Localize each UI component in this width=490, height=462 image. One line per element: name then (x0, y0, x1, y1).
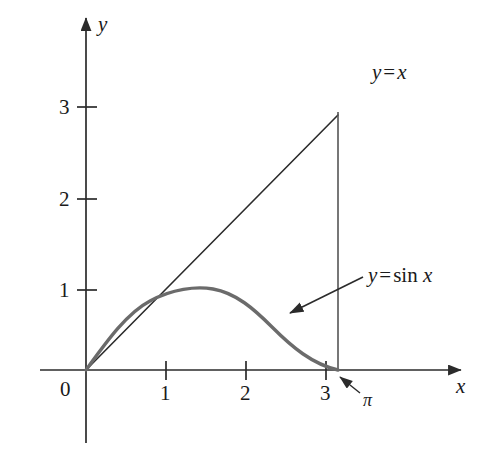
y-axis-label: y (98, 14, 107, 35)
identity-line-label: y=x (372, 62, 407, 83)
y-tick-label-1: 1 (59, 280, 70, 301)
sine-label-lhs: y (368, 263, 377, 287)
sine-curve-label: y=sin x (368, 265, 432, 286)
x-tick-label-3: 3 (320, 383, 331, 404)
x-tick-label-1: 1 (160, 383, 171, 404)
sine-label-function: sin (393, 263, 418, 287)
pi-leader-arrow (340, 377, 360, 393)
x-axis-label: x (456, 376, 465, 397)
sine-label-leader-arrow (290, 277, 363, 313)
y-tick-label-2: 2 (59, 189, 70, 210)
sine-label-operator: = (377, 263, 393, 287)
identity-label-lhs: y (372, 60, 381, 84)
origin-label: 0 (60, 379, 71, 400)
y-axis-ticks (77, 107, 97, 290)
identity-label-operator: = (381, 60, 397, 84)
pi-marker-label: π (363, 391, 372, 409)
sine-curve (86, 288, 338, 370)
sine-vs-identity-figure: y x 1 2 3 1 2 3 0 y=x y=sin x π (0, 0, 490, 462)
x-tick-label-2: 2 (240, 383, 251, 404)
identity-label-rhs: x (397, 60, 406, 84)
identity-line-y-equals-x (86, 115, 338, 370)
y-tick-label-3: 3 (59, 97, 70, 118)
sine-label-rhs: x (423, 263, 432, 287)
